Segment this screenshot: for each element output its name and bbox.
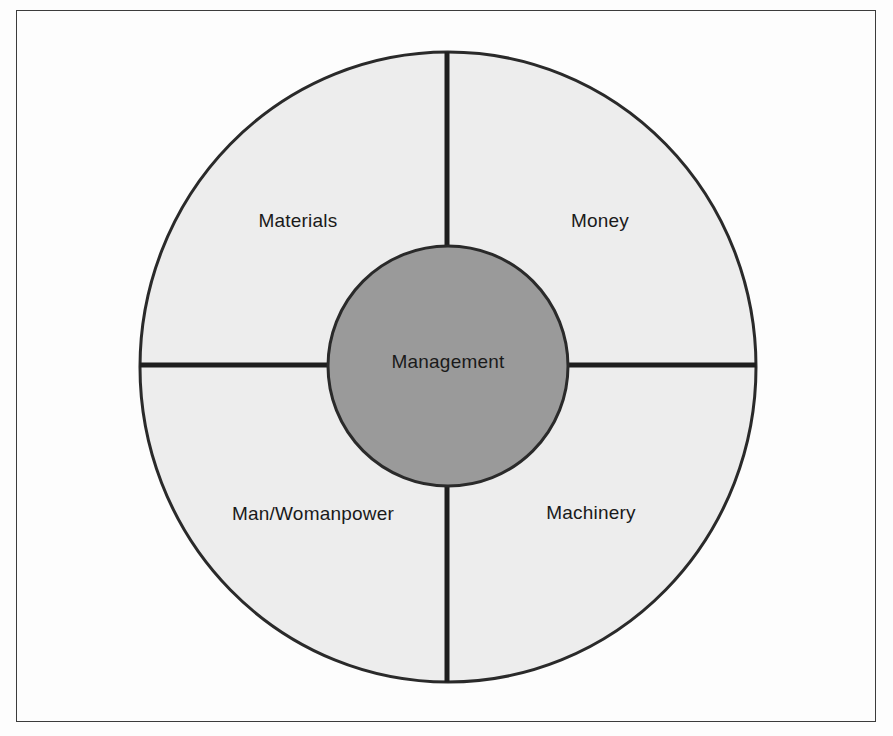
figure-frame-border: [16, 10, 876, 722]
figure-root: Materials Money Man/Womanpower Machinery…: [0, 0, 893, 736]
